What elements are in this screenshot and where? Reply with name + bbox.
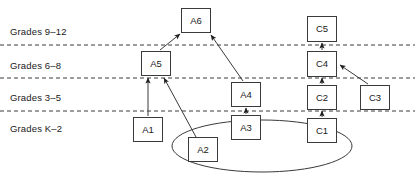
node-box-a2[interactable]: A2 (188, 137, 218, 162)
node-box-c2[interactable]: C2 (307, 85, 337, 110)
progression-diagram: Grades 9–12Grades 6–8Grades 3–5Grades K–… (0, 0, 415, 176)
node-box-a6[interactable]: A6 (181, 8, 211, 33)
grade-band-label-band-3-5: Grades 3–5 (10, 93, 61, 103)
node-box-a5[interactable]: A5 (141, 51, 171, 76)
band-divider-lines (0, 45, 415, 111)
node-box-c1[interactable]: C1 (307, 118, 337, 143)
node-box-c4[interactable]: C4 (307, 51, 337, 77)
grade-band-label-band-9-12: Grades 9–12 (10, 27, 67, 37)
grade-band-label-band-K-2: Grades K–2 (10, 124, 62, 134)
node-box-a3[interactable]: A3 (231, 115, 261, 140)
edge-A4-A6 (211, 35, 243, 81)
edge-C3-C4 (340, 65, 368, 84)
node-box-a1[interactable]: A1 (133, 117, 163, 142)
node-box-a4[interactable]: A4 (231, 82, 261, 107)
node-box-c5[interactable]: C5 (307, 16, 337, 42)
grade-band-label-band-6-8: Grades 6–8 (10, 61, 61, 71)
node-box-c3[interactable]: C3 (360, 85, 390, 110)
edge-A2-A5 (164, 78, 196, 137)
edge-A5-A6 (160, 34, 180, 50)
